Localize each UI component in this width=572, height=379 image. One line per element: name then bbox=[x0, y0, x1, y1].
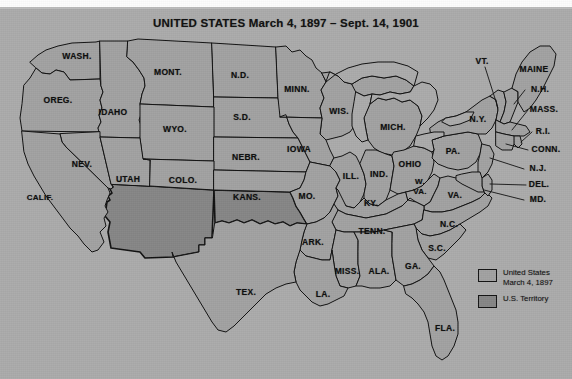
state-label: MD. bbox=[530, 195, 546, 205]
legend-label-us-territory: U.S. Territory bbox=[503, 294, 548, 304]
state-label: GA. bbox=[405, 262, 421, 272]
state-label: WIS. bbox=[329, 107, 349, 117]
state-label: TEX. bbox=[236, 288, 256, 298]
legend-item-united-states: United States March 4, 1897 bbox=[478, 268, 570, 287]
legend-us-line2: March 4, 1897 bbox=[503, 278, 553, 287]
legend-label-united-states: United States March 4, 1897 bbox=[503, 268, 553, 287]
state-label: N.H. bbox=[531, 85, 549, 95]
state-label: N.J. bbox=[530, 164, 547, 174]
map-legend: United States March 4, 1897 U.S. Territo… bbox=[478, 268, 570, 315]
state-label: TENN. bbox=[359, 227, 386, 237]
state-alabama bbox=[354, 230, 396, 288]
state-label: WYO. bbox=[163, 125, 187, 135]
state-label: UTAH bbox=[116, 175, 140, 185]
state-label: KY. bbox=[364, 199, 378, 209]
state-label: KANS. bbox=[233, 193, 261, 203]
leader-line-new-jersey bbox=[490, 158, 524, 169]
state-label: S.D. bbox=[233, 113, 251, 123]
legend-swatch-us-territory bbox=[478, 295, 497, 308]
state-label: COLO. bbox=[169, 176, 197, 186]
state-label: N.D. bbox=[231, 71, 249, 81]
state-label: MINN. bbox=[284, 85, 310, 95]
state-label: CALIF. bbox=[27, 193, 54, 203]
state-kansas bbox=[214, 170, 306, 192]
state-label: OHIO bbox=[399, 160, 422, 170]
state-label: LA. bbox=[316, 290, 331, 300]
state-label: NEV. bbox=[72, 160, 92, 170]
state-label: NEBR. bbox=[232, 153, 260, 163]
state-label: MISS. bbox=[335, 267, 360, 277]
legend-us-line1: United States bbox=[503, 268, 550, 277]
legend-swatch-united-states bbox=[478, 269, 497, 282]
state-label: IOWA bbox=[287, 145, 311, 155]
state-label: WASH. bbox=[62, 52, 91, 62]
state-label: DEL. bbox=[529, 180, 550, 190]
state-label: W.VA. bbox=[413, 177, 427, 196]
territory-arizona-new-mexico bbox=[105, 184, 214, 258]
state-label: MICH. bbox=[380, 123, 406, 133]
historical-map-figure: UNITED STATES March 4, 1897 – Sept. 14, … bbox=[0, 0, 572, 379]
state-label: ARK. bbox=[302, 238, 324, 248]
state-label: OREG. bbox=[44, 96, 73, 106]
state-label: ALA. bbox=[368, 267, 389, 277]
state-label: MONT. bbox=[154, 68, 182, 78]
state-label: FLA. bbox=[435, 324, 455, 334]
state-label: IND. bbox=[370, 170, 388, 180]
leader-line-delaware bbox=[490, 184, 526, 185]
state-label: PA. bbox=[446, 147, 460, 157]
state-maine bbox=[512, 46, 556, 112]
state-label: S.C. bbox=[428, 244, 446, 254]
state-label: MAINE bbox=[520, 65, 549, 75]
state-label: N.C. bbox=[440, 220, 458, 230]
state-label: MO. bbox=[299, 192, 316, 202]
state-label: R.I. bbox=[536, 127, 550, 137]
state-minnesota bbox=[276, 46, 326, 118]
state-label: MASS. bbox=[530, 105, 558, 115]
state-label: N.Y. bbox=[470, 115, 487, 125]
state-label: ILL. bbox=[343, 172, 359, 182]
state-label: VT. bbox=[475, 57, 488, 67]
state-label: IDAHO bbox=[99, 108, 128, 118]
state-label: CONN. bbox=[532, 145, 561, 155]
legend-item-us-territory: U.S. Territory bbox=[478, 294, 570, 308]
state-label: VA. bbox=[448, 191, 462, 201]
